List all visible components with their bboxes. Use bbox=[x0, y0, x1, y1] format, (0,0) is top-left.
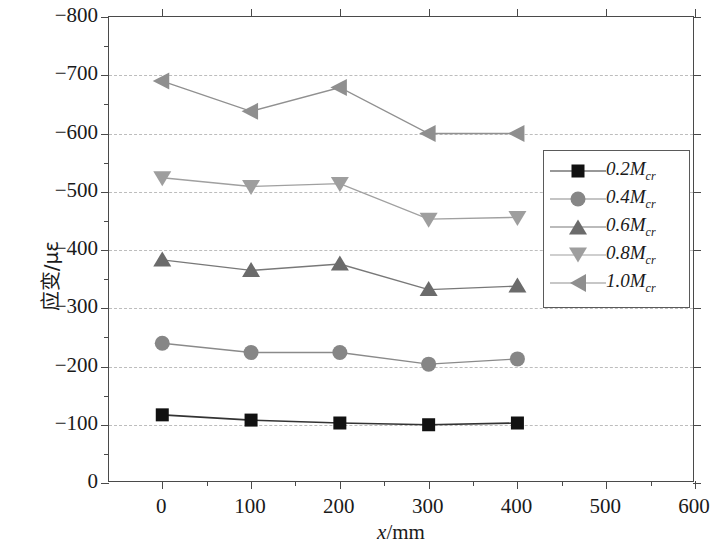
legend-marker-square-icon bbox=[572, 165, 585, 178]
data-point-marker bbox=[421, 357, 436, 372]
legend-item-0.4Mcr[interactable]: 0.4Mcr bbox=[544, 185, 689, 213]
x-axis-title-unit: /mm bbox=[386, 520, 425, 544]
data-point-marker bbox=[333, 417, 346, 430]
x-axis-tick-label: 500 bbox=[589, 496, 621, 517]
y-axis-tick bbox=[101, 250, 109, 251]
x-axis-tick bbox=[695, 481, 696, 489]
data-point-marker bbox=[244, 345, 259, 360]
legend-item-0.8Mcr[interactable]: 0.8Mcr bbox=[544, 241, 689, 269]
y-axis-tick-label: −600 bbox=[55, 122, 98, 143]
y-axis-tick bbox=[101, 192, 109, 193]
data-point-marker bbox=[332, 345, 347, 360]
y-axis-tick bbox=[101, 308, 109, 309]
data-point-marker bbox=[155, 336, 170, 351]
data-point-marker bbox=[508, 278, 526, 293]
x-axis-tick-label: 0 bbox=[156, 496, 167, 517]
data-point-marker bbox=[331, 255, 349, 270]
y-axis-tick bbox=[101, 367, 109, 368]
legend-sample bbox=[550, 217, 606, 237]
y-axis-tick bbox=[101, 75, 109, 76]
legend-label: 0.2Mcr bbox=[606, 158, 656, 184]
y-axis-tick-label: −800 bbox=[55, 5, 98, 26]
legend-marker-triangle-left-icon bbox=[570, 274, 586, 292]
data-point-marker bbox=[331, 177, 349, 192]
x-axis-tick-top bbox=[606, 9, 607, 17]
series-0.8Mcr bbox=[153, 171, 526, 227]
legend: 0.2Mcr0.4Mcr0.6Mcr0.8Mcr1.0Mcr bbox=[543, 150, 690, 308]
y-axis-tick-label: −300 bbox=[55, 296, 98, 317]
x-axis-title-variable: x bbox=[377, 520, 386, 544]
data-point-marker bbox=[242, 180, 260, 195]
y-axis-tick-label: −400 bbox=[55, 238, 98, 259]
data-point-marker bbox=[508, 211, 526, 226]
x-axis-tick-top bbox=[429, 9, 430, 17]
y-axis-tick-label: −100 bbox=[55, 413, 98, 434]
legend-marker-circle-icon bbox=[571, 192, 586, 207]
data-point-marker bbox=[420, 281, 438, 296]
x-axis-tick-label: 600 bbox=[678, 496, 710, 517]
data-point-marker bbox=[153, 251, 171, 266]
y-axis-tick bbox=[101, 17, 109, 18]
x-axis-tick-label: 400 bbox=[501, 496, 533, 517]
data-point-marker bbox=[242, 103, 259, 120]
x-axis-tick-top bbox=[162, 9, 163, 17]
legend-sample bbox=[550, 161, 606, 181]
legend-sample bbox=[550, 189, 606, 209]
data-point-marker bbox=[419, 125, 436, 142]
legend-item-1.0Mcr[interactable]: 1.0Mcr bbox=[544, 269, 689, 297]
y-axis-tick bbox=[101, 425, 109, 426]
x-axis-tick-top bbox=[251, 9, 252, 17]
series-0.4Mcr bbox=[155, 336, 525, 372]
legend-label: 0.6Mcr bbox=[606, 214, 656, 240]
series-0.6Mcr bbox=[153, 251, 526, 296]
x-axis-tick-label: 100 bbox=[234, 496, 266, 517]
legend-marker-triangle-up-icon bbox=[569, 220, 587, 235]
y-axis-tick-label: −200 bbox=[55, 355, 98, 376]
x-axis-tick-label: 300 bbox=[412, 496, 444, 517]
x-axis-tick-top bbox=[517, 9, 518, 17]
y-axis-tick-label: −700 bbox=[55, 63, 98, 84]
data-point-marker bbox=[156, 408, 169, 421]
data-point-marker bbox=[245, 414, 258, 427]
y-axis-tick-label: 0 bbox=[88, 471, 99, 492]
data-point-marker bbox=[511, 417, 524, 430]
data-point-marker bbox=[422, 418, 435, 431]
legend-item-0.2Mcr[interactable]: 0.2Mcr bbox=[544, 157, 689, 185]
y-axis-tick-label: −500 bbox=[55, 180, 98, 201]
data-point-marker bbox=[510, 351, 525, 366]
series-1.0Mcr bbox=[153, 73, 525, 142]
legend-item-0.6Mcr[interactable]: 0.6Mcr bbox=[544, 213, 689, 241]
legend-marker-triangle-down-icon bbox=[569, 248, 587, 263]
data-point-marker bbox=[508, 125, 525, 142]
x-axis-tick-top bbox=[340, 9, 341, 17]
legend-sample bbox=[550, 273, 606, 293]
legend-sample bbox=[550, 245, 606, 265]
x-axis-title: x/mm bbox=[108, 520, 694, 545]
y-axis-tick bbox=[101, 483, 109, 484]
series-0.2Mcr bbox=[156, 408, 524, 431]
data-point-marker bbox=[153, 73, 170, 90]
legend-label: 1.0Mcr bbox=[606, 270, 656, 296]
legend-label: 0.8Mcr bbox=[606, 242, 656, 268]
x-axis-tick-top bbox=[695, 9, 696, 17]
legend-label: 0.4Mcr bbox=[606, 186, 656, 212]
data-point-marker bbox=[330, 79, 347, 96]
strain-distribution-chart: 应变/με −800−700−600−500−400−300−200−1000 … bbox=[0, 0, 720, 552]
y-axis-tick bbox=[101, 134, 109, 135]
data-point-marker bbox=[420, 213, 438, 228]
x-axis-tick-label: 200 bbox=[323, 496, 355, 517]
